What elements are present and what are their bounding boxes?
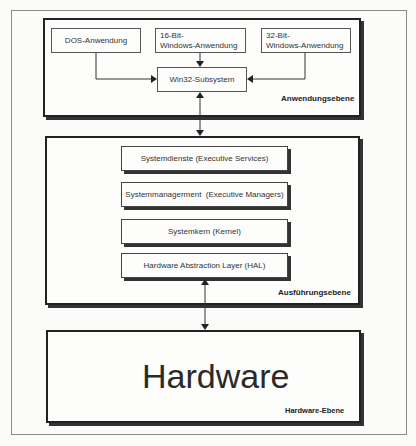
arrowhead-hal-up bbox=[201, 279, 209, 285]
arrowhead-win32-up bbox=[196, 92, 204, 98]
arrowhead-win16 bbox=[196, 61, 204, 67]
arrowhead-hardware-down bbox=[201, 324, 209, 330]
arrowhead-win32app bbox=[247, 75, 253, 83]
arrowhead-dos bbox=[151, 75, 157, 83]
connector-lines bbox=[0, 0, 416, 446]
arrowhead-exec-down bbox=[196, 130, 204, 136]
